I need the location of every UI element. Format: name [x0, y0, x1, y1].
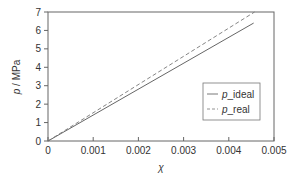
series-p-real [48, 12, 255, 141]
x-tick-label: 0.004 [216, 145, 241, 156]
series-p-ideal [48, 23, 254, 141]
y-tick-label: 6 [35, 25, 41, 36]
x-tick-label: 0.005 [261, 145, 286, 156]
legend-item-real: p_real [221, 104, 250, 115]
y-tick-label: 7 [35, 7, 41, 18]
x-tick-label: 0.002 [126, 145, 151, 156]
y-tick-label: 3 [35, 80, 41, 91]
y-axis: 01234567 [35, 7, 48, 147]
x-tick-label: 0.003 [171, 145, 196, 156]
y-tick-label: 0 [35, 136, 41, 147]
x-axis-label: χ [157, 162, 164, 173]
y-tick-label: 4 [35, 62, 41, 73]
legend: p_ideal p_real [203, 83, 260, 120]
x-axis: 00.0010.0020.0030.0040.005 [45, 137, 287, 156]
y-tick-label: 2 [35, 99, 41, 110]
legend-item-ideal: p_ideal [221, 89, 254, 100]
x-tick-label: 0 [45, 145, 51, 156]
y-axis-label: p / MPa [11, 59, 22, 95]
y-tick-label: 1 [35, 117, 41, 128]
chart: 01234567 00.0010.0020.0030.0040.005 p / … [0, 0, 294, 183]
plot-series [48, 12, 255, 141]
x-tick-label: 0.001 [81, 145, 106, 156]
y-tick-label: 5 [35, 43, 41, 54]
